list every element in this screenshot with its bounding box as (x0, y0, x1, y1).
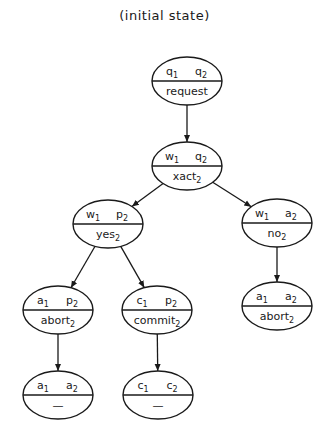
state-node-final-abort: a1a2— (23, 371, 93, 419)
edge-yes-to-abort-left (71, 246, 95, 287)
state-node-request: q1q2request (152, 57, 222, 105)
state-node-commit: c1p2commit2 (122, 286, 192, 334)
node-bottom-label: — (53, 399, 64, 412)
node-bottom-label: — (153, 399, 164, 412)
state-node-yes: w1p2yes2 (73, 200, 143, 248)
edge-xact-to-yes (132, 184, 163, 207)
state-node-abort-right: a1a2abort2 (242, 282, 312, 330)
nodes: q1q2requestw1q2xact2w1p2yes2w1a2no2a1p2a… (23, 57, 312, 419)
state-node-abort-left: a1p2abort2 (23, 286, 93, 334)
state-diagram: q1q2requestw1q2xact2w1p2yes2w1a2no2a1p2a… (0, 0, 329, 444)
state-node-no: w1a2no2 (242, 199, 312, 247)
state-node-xact: w1q2xact2 (152, 142, 222, 190)
edge-xact-to-no (213, 182, 252, 206)
state-node-final-commit: c1c2— (123, 371, 193, 419)
node-bottom-label: abort2 (260, 310, 294, 325)
node-bottom-label: request (166, 85, 209, 98)
node-bottom-label: commit2 (134, 314, 181, 329)
edge-yes-to-commit (121, 246, 145, 287)
node-bottom-label: abort2 (41, 314, 75, 329)
